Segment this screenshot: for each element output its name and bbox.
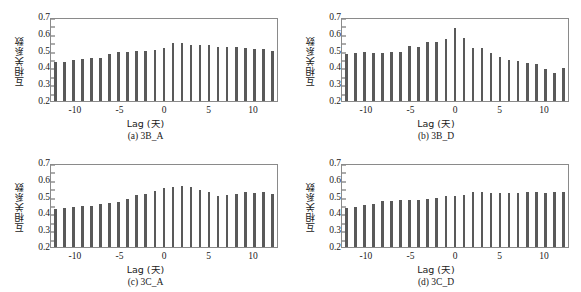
bar <box>417 200 420 247</box>
x-tick-label: 0 <box>453 252 458 262</box>
bar <box>208 192 211 247</box>
y-tick-label: 0.6 <box>38 176 50 186</box>
bar <box>117 202 120 247</box>
x-tick-label: -10 <box>360 252 373 262</box>
bar <box>354 207 357 247</box>
bar <box>481 48 484 101</box>
x-tick-label: 0 <box>162 252 167 262</box>
bar <box>244 192 247 247</box>
bar <box>517 61 520 101</box>
y-tick-label: 0.4 <box>329 64 341 74</box>
bar <box>526 63 529 101</box>
bar <box>108 54 111 101</box>
bar <box>135 195 138 247</box>
bar <box>426 199 429 247</box>
bar <box>126 52 129 101</box>
bar <box>199 45 202 101</box>
bar <box>271 51 274 101</box>
bar <box>154 50 157 101</box>
bar <box>454 28 457 101</box>
bar <box>372 204 375 248</box>
x-tick-label: 5 <box>206 106 211 116</box>
bar <box>190 45 193 101</box>
bar <box>144 194 147 247</box>
x-tick-label: -10 <box>69 252 82 262</box>
y-axis-tick-labels: 0.70.60.50.40.30.2 <box>317 160 341 252</box>
y-tick-label: 0.7 <box>329 159 341 169</box>
bar <box>208 45 211 101</box>
y-axis-tick-labels: 0.70.60.50.40.30.2 <box>26 14 50 106</box>
bar <box>544 69 547 101</box>
bar <box>408 200 411 247</box>
y-tick-label: 0.6 <box>329 30 341 40</box>
bar <box>544 193 547 247</box>
bar <box>108 203 111 247</box>
y-axis-tick-labels: 0.70.60.50.40.30.2 <box>317 14 341 106</box>
bar <box>390 52 393 101</box>
plot-area <box>50 164 278 248</box>
bar <box>535 64 538 101</box>
y-tick-label: 0.3 <box>38 80 50 90</box>
x-axis-label: Lag (天) <box>0 118 291 129</box>
y-tick-label: 0.5 <box>329 47 341 57</box>
panel-caption: (d) 3C_D <box>291 277 581 288</box>
bar <box>163 188 166 247</box>
bar <box>454 196 457 247</box>
bar <box>72 60 75 101</box>
bar <box>481 192 484 247</box>
y-tick-label: 0.4 <box>329 210 341 220</box>
bar <box>199 190 202 247</box>
panel-caption: (c) 3C_A <box>0 277 291 288</box>
bar <box>408 46 411 101</box>
x-tick-label: -10 <box>69 106 82 116</box>
bar <box>63 62 66 101</box>
y-tick-label: 0.6 <box>329 176 341 186</box>
chart-panel-a: 互相关系数0.70.60.50.40.30.2-10-50510Lag (天)(… <box>0 0 291 146</box>
bar <box>445 39 448 101</box>
bar <box>235 47 238 101</box>
bar <box>54 209 57 247</box>
chart-panel-c: 互相关系数0.70.60.50.40.30.2-10-50510Lag (天)(… <box>0 146 291 292</box>
bar-series <box>51 165 277 247</box>
y-axis-tick-labels: 0.70.60.50.40.30.2 <box>26 160 50 252</box>
bar <box>508 193 511 247</box>
bar <box>345 54 348 101</box>
x-tick-label: -5 <box>407 106 415 116</box>
bar <box>508 60 511 101</box>
bar <box>426 42 429 101</box>
bar <box>217 47 220 101</box>
bar <box>435 198 438 247</box>
bar <box>372 53 375 101</box>
bar <box>144 51 147 101</box>
panel-caption: (a) 3B_A <box>0 131 291 142</box>
bar <box>345 208 348 247</box>
y-tick-label: 0.3 <box>329 80 341 90</box>
y-tick-label: 0.2 <box>329 243 341 253</box>
bar <box>154 191 157 247</box>
bar-series <box>342 165 568 247</box>
bar <box>463 38 466 101</box>
x-tick-label: 0 <box>162 106 167 116</box>
bar <box>54 62 57 101</box>
y-tick-label: 0.7 <box>38 13 50 23</box>
bar <box>90 206 93 247</box>
x-tick-label: -5 <box>116 252 124 262</box>
bar <box>99 204 102 247</box>
y-tick-label: 0.2 <box>38 243 50 253</box>
bar <box>399 52 402 101</box>
y-tick-label: 0.5 <box>329 193 341 203</box>
bar <box>72 207 75 247</box>
bar <box>399 200 402 247</box>
bar <box>181 186 184 247</box>
bar <box>135 51 138 101</box>
x-tick-label: 10 <box>539 106 549 116</box>
bar <box>226 195 229 247</box>
bar <box>535 192 538 247</box>
bar <box>271 194 274 247</box>
bar <box>445 196 448 247</box>
bar <box>253 49 256 101</box>
x-axis-label: Lag (天) <box>0 264 291 275</box>
bar <box>381 201 384 247</box>
y-tick-label: 0.3 <box>329 226 341 236</box>
x-tick-label: 5 <box>497 252 502 262</box>
